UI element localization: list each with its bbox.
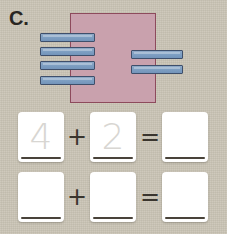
counting-bar <box>40 47 95 56</box>
counting-bar <box>131 50 183 59</box>
counting-bar <box>40 76 95 85</box>
item-label: C. <box>9 8 28 28</box>
equals-sign: = <box>139 172 161 222</box>
plus-sign: + <box>66 172 88 222</box>
sum-box[interactable] <box>162 172 208 222</box>
worksheet-item: C. 4 + 2 = + = <box>0 0 227 234</box>
traced-numeral <box>18 172 64 222</box>
traced-numeral <box>162 172 208 222</box>
equals-sign: = <box>139 112 161 162</box>
plus-sign: + <box>66 112 88 162</box>
equation-row: 4 + 2 = <box>0 112 227 170</box>
write-on-rule <box>93 217 133 219</box>
counting-bar <box>131 65 183 74</box>
counting-bar <box>40 33 95 42</box>
write-on-rule <box>21 157 61 159</box>
addend-1-box[interactable] <box>18 172 64 222</box>
counting-bar <box>40 61 95 70</box>
addend-2-box[interactable] <box>90 172 136 222</box>
write-on-rule <box>93 157 133 159</box>
traced-numeral: 2 <box>90 112 136 162</box>
write-on-rule <box>21 217 61 219</box>
addend-2-box[interactable]: 2 <box>90 112 136 162</box>
write-on-rule <box>165 217 205 219</box>
traced-numeral <box>162 112 208 162</box>
addend-1-box[interactable]: 4 <box>18 112 64 162</box>
write-on-rule <box>165 157 205 159</box>
equation-row: + = <box>0 172 227 230</box>
sum-box[interactable] <box>162 112 208 162</box>
traced-numeral: 4 <box>18 112 64 162</box>
traced-numeral <box>90 172 136 222</box>
